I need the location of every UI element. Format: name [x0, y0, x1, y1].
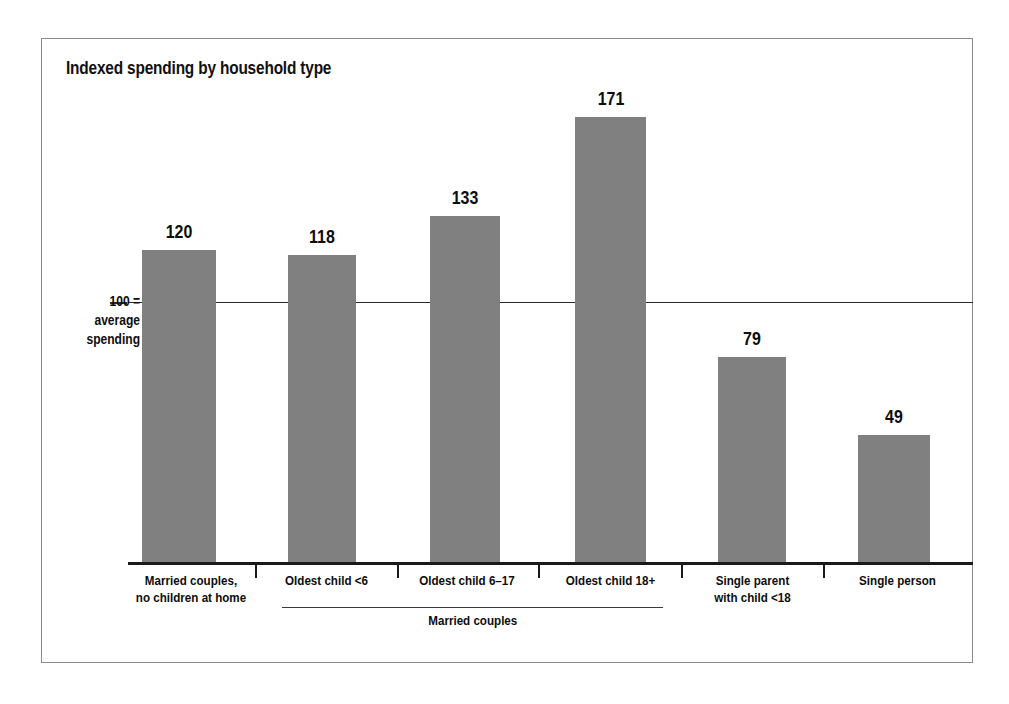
- category-label: Oldest child 6–17: [390, 572, 545, 589]
- bar: [575, 117, 646, 562]
- bar-value-label: 79: [718, 328, 785, 350]
- category-label-line: with child <18: [677, 589, 828, 606]
- reference-line-100: [128, 302, 973, 303]
- category-label: Single parentwith child <18: [677, 572, 828, 606]
- reference-label-line-1: 100 =: [73, 292, 140, 311]
- axis-tick: [681, 565, 683, 578]
- axis-tick: [538, 565, 540, 578]
- group-bracket-label: Married couples: [282, 613, 663, 628]
- category-label-line: no children at home: [109, 589, 272, 606]
- category-label-line: Married couples,: [109, 572, 272, 589]
- reference-label-line-2: average: [73, 311, 140, 330]
- category-label-line: Oldest child 6–17: [390, 572, 545, 589]
- bar-value-label: 118: [288, 226, 355, 248]
- bar: [430, 216, 500, 562]
- bar-value-label: 49: [860, 406, 927, 428]
- group-bracket-label-text: Married couples: [428, 613, 517, 628]
- plot-area: 100 =averagespending Married couples 120…: [0, 0, 1009, 704]
- bar: [142, 250, 216, 562]
- axis-tick: [823, 565, 825, 578]
- category-label-line: Single parent: [677, 572, 828, 589]
- category-label: Single person: [822, 572, 973, 589]
- axis-tick: [255, 565, 257, 578]
- bar-value-label: 133: [431, 187, 498, 209]
- category-label: Oldest child 18+: [535, 572, 686, 589]
- category-label: Oldest child <6: [251, 572, 402, 589]
- axis-tick: [397, 565, 399, 578]
- category-label: Married couples,no children at home: [109, 572, 272, 606]
- reference-line-label: 100 =averagespending: [62, 292, 140, 349]
- reference-label-line-3: spending: [73, 330, 140, 349]
- bar-value-label: 171: [577, 88, 644, 110]
- bar: [858, 435, 930, 562]
- category-label-line: Single person: [822, 572, 973, 589]
- chart-figure: Indexed spending by household type 100 =…: [0, 0, 1009, 704]
- category-label-line: Oldest child <6: [251, 572, 402, 589]
- bar: [288, 255, 356, 562]
- category-label-line: Oldest child 18+: [535, 572, 686, 589]
- bar-value-label: 120: [145, 221, 212, 243]
- bar: [718, 357, 786, 562]
- group-bracket-line: [282, 607, 663, 608]
